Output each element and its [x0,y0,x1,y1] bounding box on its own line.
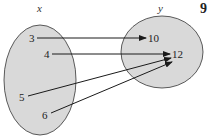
domain-value-6: 6 [42,109,48,121]
problem-number: 9 [200,1,207,16]
range-label: y [157,2,163,14]
range-value-12: 12 [172,48,183,60]
range-value-10: 10 [148,32,160,44]
domain-value-4: 4 [44,48,50,60]
range-set-ellipse [121,16,203,88]
domain-set-ellipse [4,25,76,135]
mapping-diagram: x y 9 3 4 5 6 10 12 [0,0,208,140]
domain-label: x [36,2,42,14]
domain-value-5: 5 [19,91,25,103]
domain-value-3: 3 [29,32,35,44]
